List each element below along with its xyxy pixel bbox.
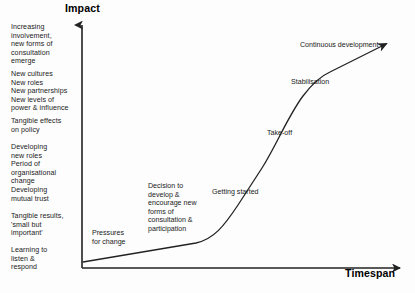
x-axis-title: Timespan xyxy=(345,268,395,279)
curve-stage-continuous-development: Continuous development xyxy=(300,41,378,50)
impact-label-developing-mutual-trust: Developing mutual trust xyxy=(11,186,79,203)
impact-label-tangible-results: Tangible results, 'small but important' xyxy=(11,212,79,238)
impact-label-new-cultures: New cultures New roles New partnerships … xyxy=(11,70,83,113)
impact-label-tangible-effects-on-policy: Tangible effects on policy xyxy=(11,117,81,134)
impact-label-increasing-involvement: Increasing involvement, new forms of con… xyxy=(11,23,77,66)
curve-stage-getting-started: Getting started xyxy=(212,188,259,197)
impact-label-learning-to-listen: Learning to listen & respond xyxy=(11,246,79,272)
y-axis-title: Impact xyxy=(65,3,100,14)
curve-stage-take-off: Take-off xyxy=(267,129,292,138)
curve-stage-stabilisation: Stabilisation xyxy=(291,78,329,87)
curve-stage-pressures-for-change: Pressures for change xyxy=(92,229,142,246)
impact-timespan-diagram: Impact Timespan Increasing involvement, … xyxy=(0,0,415,293)
curve-stage-decision-to-develop: Decision to develop & encourage new form… xyxy=(148,182,202,234)
impact-label-developing-new-roles: Developing new roles Period of organisat… xyxy=(11,143,79,186)
